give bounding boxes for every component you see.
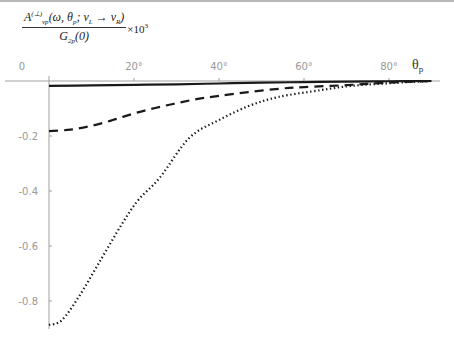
chart-canvas: 020°40°60°80° -0.2-0.4-0.6-0.8 θp [0, 0, 454, 345]
x-axis-label: θp [412, 57, 424, 74]
x-axis-ticks: 020°40°60°80° [19, 61, 398, 81]
x-tick-label: 60° [295, 61, 313, 72]
y-tick-label: -0.8 [18, 296, 38, 307]
series-dotted-line [49, 81, 432, 325]
x-tick-label: 80° [380, 61, 398, 72]
x-tick-label: 0 [19, 61, 25, 72]
x-tick-label: 20° [125, 61, 143, 72]
y-axis-ticks: -0.2-0.4-0.6-0.8 [18, 131, 52, 307]
axes [5, 76, 440, 329]
x-axis-label-sub: p [419, 64, 424, 74]
y-tick-label: -0.4 [18, 186, 38, 197]
y-tick-label: -0.6 [18, 241, 38, 252]
x-tick-label: 40° [210, 61, 228, 72]
y-tick-label: -0.2 [18, 131, 38, 142]
series-dashed-line [49, 81, 432, 131]
data-series [49, 81, 432, 325]
